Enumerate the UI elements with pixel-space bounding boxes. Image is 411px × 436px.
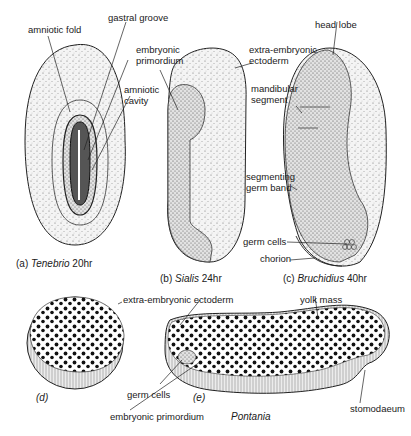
caption-a-species: Tenebrio (31, 258, 70, 269)
label-mandibular-2: segment (251, 95, 287, 105)
label-chorion: chorion (260, 254, 291, 264)
caption-b: (b) Sialis 24hr (160, 273, 222, 284)
label-mandibular-1: mandibular (251, 84, 298, 94)
label-gastral-groove: gastral groove (108, 13, 168, 23)
panel-a-tenebrio (25, 44, 125, 245)
caption-b-time: 24hr (202, 273, 222, 284)
caption-c: (c) Bruchidius 40hr (283, 273, 367, 284)
caption-e: (e) (193, 392, 205, 403)
label-extra-embryonic-ectoderm-1: extra-embryonic (249, 45, 317, 55)
caption-c-time: 40hr (347, 273, 367, 284)
label-embryonic-primordium-2: primordium (136, 56, 184, 66)
label-head-lobe: head lobe (315, 20, 357, 30)
caption-c-species: Bruchidius (297, 273, 344, 284)
caption-a-prefix: (a) (16, 258, 28, 269)
caption-a-time: 20hr (72, 258, 92, 269)
label-amniotic-cavity-2: cavity (124, 96, 148, 106)
caption-d: (d) (36, 392, 48, 403)
caption-b-prefix: (b) (160, 273, 172, 284)
label-germ-cells-bottom: germ cells (127, 390, 170, 400)
caption-e-species: Pontania (231, 411, 270, 422)
panel-c-bruchidius (283, 48, 386, 266)
label-amniotic-fold: amniotic fold (28, 25, 81, 35)
caption-a: (a) Tenebrio 20hr (16, 258, 92, 269)
label-stomodaeum: stomodaeum (350, 404, 405, 414)
caption-c-prefix: (c) (283, 273, 295, 284)
label-extra-embryonic-ectoderm-2: ectoderm (249, 56, 289, 66)
label-amniotic-cavity-1: amniotic (124, 85, 159, 95)
embryo-figure (0, 0, 411, 436)
label-segmenting-1: segmenting (246, 172, 295, 182)
label-segmenting-2: germ band (246, 183, 291, 193)
label-yolk-mass: yolk mass (300, 295, 342, 305)
panel-e-pontania (165, 305, 389, 393)
label-embryonic-primordium-1: embryonic (136, 45, 180, 55)
panel-b-sialis (168, 48, 246, 262)
label-embryonic-primordium-bottom: embryonic primordium (110, 412, 204, 422)
panel-d (27, 297, 124, 389)
label-germ-cells-c: germ cells (243, 237, 286, 247)
caption-b-species: Sialis (175, 273, 199, 284)
label-extra-embryonic-ectoderm-bottom: extra-embryonic ectoderm (123, 295, 233, 305)
